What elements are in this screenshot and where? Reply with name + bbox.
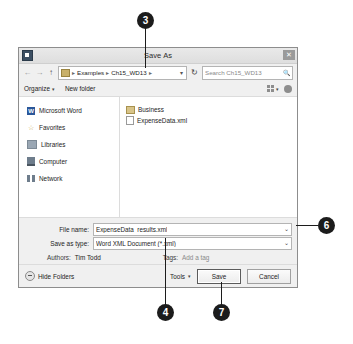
file-name-business: Business <box>138 106 164 113</box>
nav-item-microsoft-word[interactable]: W Microsoft Word <box>19 102 119 119</box>
star-icon: ☆ <box>27 124 35 132</box>
chevron-down-icon: ▾ <box>188 273 191 279</box>
computer-icon <box>27 157 35 166</box>
list-item[interactable]: ExpenseData.xml <box>126 115 297 126</box>
authors-label: Authors: <box>47 254 71 261</box>
breadcrumb-separator-1: ▸ <box>106 69 109 76</box>
refresh-icon[interactable]: ↻ <box>190 68 199 77</box>
hide-folders-label: Hide Folders <box>38 273 74 280</box>
callout-marker-4: 4 <box>157 304 174 321</box>
nav-item-libraries[interactable]: Libraries <box>19 136 119 153</box>
collapse-icon <box>25 271 35 281</box>
tags-value[interactable]: Add a tag <box>182 254 209 261</box>
dialog-toolbar: Organize ▾ New folder ▾ <box>19 81 297 97</box>
nav-label-favorites: Favorites <box>39 124 65 131</box>
network-icon <box>27 175 35 182</box>
tools-button[interactable]: Tools ▾ <box>170 273 191 280</box>
form-area: File name: ExpenseData_results.xml ⌄ Sav… <box>19 218 297 263</box>
callout-leader-4 <box>165 238 166 306</box>
breadcrumb-separator-2: ▸ <box>149 69 152 76</box>
close-icon[interactable]: ✕ <box>283 50 295 60</box>
nav-item-network[interactable]: Network <box>19 170 119 187</box>
callout-leader-3 <box>145 28 146 68</box>
search-icon: 🔍 <box>283 69 290 76</box>
view-mode-button[interactable]: ▾ <box>267 85 279 92</box>
up-button[interactable]: ↑ <box>47 68 55 77</box>
metadata-row: Authors: Tim Todd Tags: Add a tag <box>19 251 297 263</box>
savetype-value: Word XML Document (*.xml) <box>96 240 176 247</box>
authors-value[interactable]: Tim Todd <box>75 254 101 261</box>
tools-label: Tools <box>170 273 185 280</box>
file-list: Business ExpenseData.xml <box>119 97 297 217</box>
chevron-down-icon[interactable]: ▾ <box>180 70 184 76</box>
hide-folders-button[interactable]: Hide Folders <box>25 271 74 281</box>
nav-label-libraries: Libraries <box>41 141 66 148</box>
search-input[interactable]: Search Ch15_WD13 🔍 <box>202 66 293 80</box>
libraries-icon <box>27 140 37 149</box>
list-item[interactable]: Business <box>126 104 297 115</box>
address-bar: ← → ↑ ▸ Examples ▸ Ch15_WD13 ▸ ▾ ↻ Searc… <box>19 64 297 81</box>
footer-button-group: Tools ▾ Save Cancel <box>170 269 291 284</box>
nav-item-computer[interactable]: Computer <box>19 153 119 170</box>
callout-leader-7 <box>221 282 222 306</box>
chevron-down-icon: ▾ <box>52 86 55 92</box>
nav-label-computer: Computer <box>39 158 67 165</box>
filename-label: File name: <box>19 226 93 233</box>
save-button[interactable]: Save <box>197 269 241 284</box>
search-placeholder: Search Ch15_WD13 <box>205 69 262 76</box>
callout-marker-6: 6 <box>318 217 335 234</box>
organize-button[interactable]: Organize ▾ <box>24 85 55 92</box>
dialog-body: W Microsoft Word ☆ Favorites Libraries C… <box>19 97 297 218</box>
chevron-down-icon: ▾ <box>276 86 279 92</box>
organize-label: Organize <box>24 85 50 92</box>
word-icon: W <box>27 107 35 115</box>
savetype-select[interactable]: Word XML Document (*.xml) ⌄ <box>93 237 292 250</box>
callout-leader-6 <box>296 225 318 226</box>
savetype-row: Save as type: Word XML Document (*.xml) … <box>19 237 297 249</box>
breadcrumb-item-examples[interactable]: Examples <box>77 69 104 76</box>
savetype-label: Save as type: <box>19 240 93 247</box>
breadcrumb-item-ch15[interactable]: Ch15_WD13 <box>111 69 146 76</box>
nav-item-favorites[interactable]: ☆ Favorites <box>19 119 119 136</box>
cancel-button[interactable]: Cancel <box>247 269 291 284</box>
folder-icon <box>61 69 70 77</box>
dialog-title: Save As <box>19 51 297 60</box>
chevron-down-icon[interactable]: ⌄ <box>284 240 289 246</box>
help-icon[interactable] <box>284 85 292 93</box>
callout-marker-7: 7 <box>213 304 230 321</box>
xml-file-icon <box>126 116 134 125</box>
new-folder-button[interactable]: New folder <box>65 85 96 92</box>
nav-label-network: Network <box>39 175 62 182</box>
new-folder-label: New folder <box>65 85 96 92</box>
navigation-pane: W Microsoft Word ☆ Favorites Libraries C… <box>19 97 119 217</box>
breadcrumb-separator-0: ▸ <box>72 69 75 76</box>
chevron-down-icon[interactable]: ⌄ <box>284 226 289 232</box>
forward-button[interactable]: → <box>35 68 44 77</box>
dialog-titlebar[interactable]: Save As ✕ <box>19 48 297 64</box>
back-button[interactable]: ← <box>23 68 32 77</box>
dialog-footer: Hide Folders Tools ▾ Save Cancel <box>19 264 297 287</box>
view-grid-icon <box>267 85 274 92</box>
filename-input[interactable]: ExpenseData_results.xml ⌄ <box>93 223 292 236</box>
folder-icon <box>126 106 135 114</box>
filename-value: ExpenseData_results.xml <box>96 226 167 233</box>
toolbar-right-group: ▾ <box>267 85 292 93</box>
callout-marker-3: 3 <box>137 12 154 29</box>
filename-row: File name: ExpenseData_results.xml ⌄ <box>19 223 297 235</box>
file-name-expensedata: ExpenseData.xml <box>137 117 187 124</box>
breadcrumb-bar[interactable]: ▸ Examples ▸ Ch15_WD13 ▸ ▾ <box>58 66 187 80</box>
nav-label-microsoft-word: Microsoft Word <box>39 107 82 114</box>
save-as-dialog: Save As ✕ ← → ↑ ▸ Examples ▸ Ch15_WD13 ▸… <box>18 47 298 288</box>
